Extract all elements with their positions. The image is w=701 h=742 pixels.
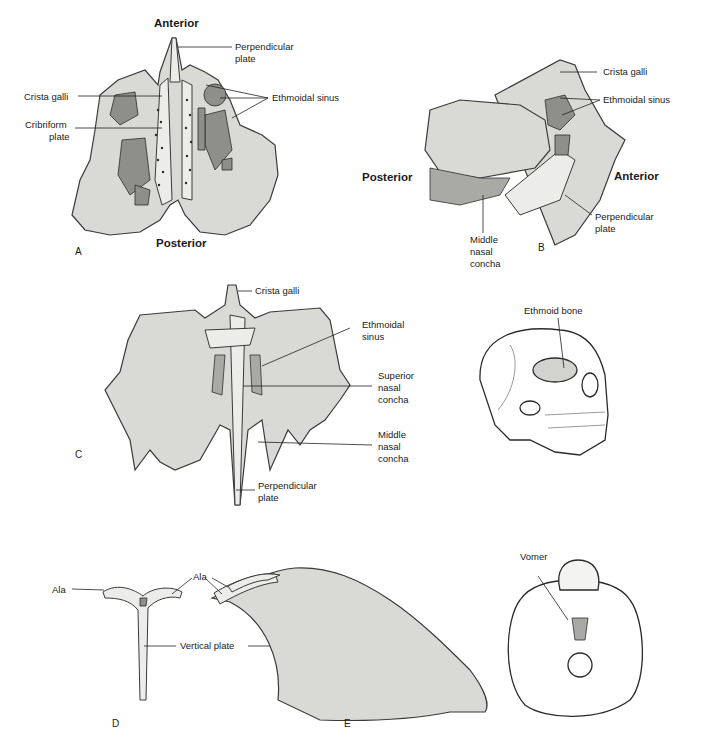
panel-d-letter: D [112, 718, 119, 729]
panel-c-middle-nasal-concha-label-line2: nasal [378, 441, 401, 452]
panel-c-perpendicular-plate-label-line1: Perpendicular [258, 480, 317, 491]
vertical-plate-label: Vertical plate [180, 640, 234, 651]
panel-a-cribriform-plate-label-line1: Cribriform [25, 119, 67, 130]
skull-inferior-vomer-label: Vomer [520, 551, 547, 562]
panel-a-ethmoidal-sinus-label: Ethmoidal sinus [272, 92, 339, 103]
panel-c-superior-nasal-concha-label-line2: nasal [378, 382, 401, 393]
panel-c-superior-nasal-concha-label-line1: Superior [378, 370, 414, 381]
panel-a-anterior-label: Anterior [154, 18, 199, 29]
panel-b-crista-galli-label: Crista galli [603, 66, 647, 77]
panel-a-crista-galli-label: Crista galli [24, 91, 68, 102]
panel-c-perpendicular-plate-label-line2: plate [258, 492, 279, 503]
skull-lateral-view [480, 318, 608, 455]
panel-a-posterior-label: Posterior [156, 238, 207, 249]
panel-a-cribriform-plate-label-line2: plate [49, 131, 70, 142]
panel-a-ethmoid-superior-view [72, 38, 278, 235]
panel-c-letter: C [75, 449, 82, 460]
panel-a-letter: A [75, 246, 82, 257]
panel-a-perpendicular-plate-label-line2: plate [235, 53, 256, 64]
panel-b-middle-nasal-concha-label-line1: Middle [470, 234, 498, 245]
panel-c-ethmoidal-sinus-label-line1: Ethmoidal [362, 319, 404, 330]
skull-lateral-ethmoid-bone-label: Ethmoid bone [524, 305, 583, 316]
panel-b-anterior-label: Anterior [614, 171, 659, 182]
panel-c-ethmoid-posterior-view [105, 285, 372, 505]
panel-e-vomer-lateral-view [205, 568, 487, 721]
panel-c-superior-nasal-concha-label-line3: concha [378, 394, 409, 405]
panel-e-letter: E [344, 718, 351, 729]
panel-c-middle-nasal-concha-label-line3: concha [378, 453, 409, 464]
panel-b-middle-nasal-concha-label-line2: nasal [470, 246, 493, 257]
panel-b-perpendicular-plate-label-line2: plate [595, 223, 616, 234]
panel-b-middle-nasal-concha-label-line3: concha [470, 258, 501, 269]
panel-b-ethmoidal-sinus-label: Ethmoidal sinus [603, 94, 670, 105]
panel-c-middle-nasal-concha-label-line1: Middle [378, 429, 406, 440]
panel-b-posterior-label: Posterior [362, 172, 413, 183]
panel-c-ethmoidal-sinus-label-line2: sinus [362, 331, 384, 342]
panel-d-ala-label: Ala [52, 584, 66, 595]
skull-inferior-view [508, 560, 642, 716]
panel-e-ala-label: Ala [193, 571, 207, 582]
panel-b-perpendicular-plate-label-line1: Perpendicular [595, 211, 654, 222]
panel-b-letter: B [538, 242, 545, 253]
panel-c-crista-galli-label: Crista galli [255, 285, 299, 296]
panel-a-perpendicular-plate-label-line1: Perpendicular [235, 41, 294, 52]
